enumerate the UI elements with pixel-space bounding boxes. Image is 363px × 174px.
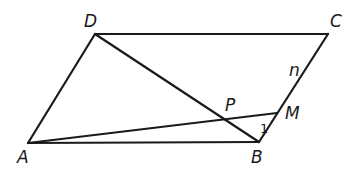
label-point-c: C <box>330 11 342 31</box>
label-point-b: B <box>251 147 263 167</box>
label-point-m: M <box>285 103 300 123</box>
segment-bc <box>259 34 328 142</box>
segment-da <box>28 34 95 143</box>
label-point-a: A <box>16 147 29 167</box>
label-point-p: P <box>225 95 236 115</box>
label-point-d: D <box>84 11 97 31</box>
label-angle-1: 1 <box>260 121 268 136</box>
segment-ab <box>28 142 259 143</box>
parallelogram-figure: A B C D M P n 1 <box>0 0 363 174</box>
label-side-n: n <box>289 60 300 80</box>
